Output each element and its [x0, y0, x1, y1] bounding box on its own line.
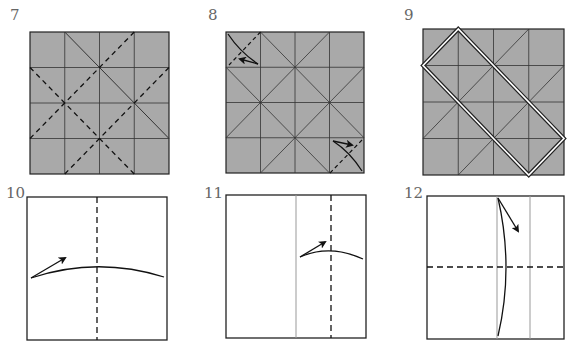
step-12-panel [427, 196, 564, 339]
step-11-panel [226, 195, 366, 338]
step-9-panel [423, 29, 564, 175]
step-7-panel [30, 32, 169, 174]
step-10-panel [27, 197, 167, 340]
step-8-panel [226, 32, 364, 173]
diagram-canvas [0, 0, 574, 350]
